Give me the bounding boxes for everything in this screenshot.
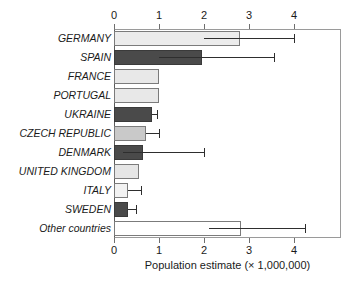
- error-bar-cap: [136, 205, 137, 214]
- error-bar-cap: [305, 224, 306, 233]
- category-label: DENMARK: [0, 143, 111, 162]
- bar: [114, 69, 159, 84]
- error-bar: [123, 152, 204, 153]
- x-tick-label: 1: [149, 9, 169, 21]
- x-tick-label: 0: [104, 9, 124, 21]
- x-tick-label: 2: [194, 9, 214, 21]
- bar: [114, 202, 128, 217]
- bar-row: UKRAINE: [0, 105, 361, 124]
- bar-row: SWEDEN: [0, 200, 361, 219]
- bar-row: FRANCE: [0, 67, 361, 86]
- category-label: ITALY: [0, 181, 111, 200]
- error-bar: [128, 209, 136, 210]
- bar-row: DENMARK: [0, 143, 361, 162]
- category-label: SWEDEN: [0, 200, 111, 219]
- x-tick-label: 3: [239, 244, 259, 256]
- bar-row: GERMANY: [0, 29, 361, 48]
- x-tick-mark: [159, 238, 160, 243]
- x-tick-label: 4: [284, 9, 304, 21]
- category-label: GERMANY: [0, 29, 111, 48]
- category-label: UNITED KINGDOM: [0, 162, 111, 181]
- bar-row: SPAIN: [0, 48, 361, 67]
- bar-row: CZECH REPUBLIC: [0, 124, 361, 143]
- x-tick-mark: [114, 238, 115, 243]
- x-tick-mark: [294, 238, 295, 243]
- x-tick-label: 2: [194, 244, 214, 256]
- x-tick-mark: [204, 238, 205, 243]
- x-axis-title: Population estimate (× 1,000,000): [114, 259, 341, 271]
- error-bar: [159, 57, 274, 58]
- category-label: FRANCE: [0, 67, 111, 86]
- error-bar: [209, 228, 306, 229]
- error-bar-cap: [274, 53, 275, 62]
- bar: [114, 183, 128, 198]
- category-label: UKRAINE: [0, 105, 111, 124]
- error-bar-cap: [294, 34, 295, 43]
- x-tick-label: 0: [104, 244, 124, 256]
- category-label: Other countries: [0, 219, 111, 238]
- category-label: SPAIN: [0, 48, 111, 67]
- x-tick-label: 4: [284, 244, 304, 256]
- category-label: PORTUGAL: [0, 86, 111, 105]
- bar: [114, 88, 159, 103]
- bar: [114, 126, 146, 141]
- bar: [114, 164, 139, 179]
- error-bar-cap: [157, 110, 158, 119]
- x-tick-label: 1: [149, 244, 169, 256]
- error-bar: [146, 133, 160, 134]
- error-bar-cap: [204, 148, 205, 157]
- bar-row: PORTUGAL: [0, 86, 361, 105]
- bar: [114, 107, 152, 122]
- error-bar: [128, 190, 142, 191]
- error-bar-cap: [141, 186, 142, 195]
- x-tick-mark: [249, 238, 250, 243]
- error-bar-cap: [159, 129, 160, 138]
- population-estimate-bar-chart: 01234 GERMANYSPAINFRANCEPORTUGALUKRAINEC…: [0, 0, 361, 288]
- bar-row: Other countries: [0, 219, 361, 238]
- error-bar: [204, 38, 294, 39]
- bar-row: ITALY: [0, 181, 361, 200]
- x-tick-label: 3: [239, 9, 259, 21]
- category-label: CZECH REPUBLIC: [0, 124, 111, 143]
- bar-row: UNITED KINGDOM: [0, 162, 361, 181]
